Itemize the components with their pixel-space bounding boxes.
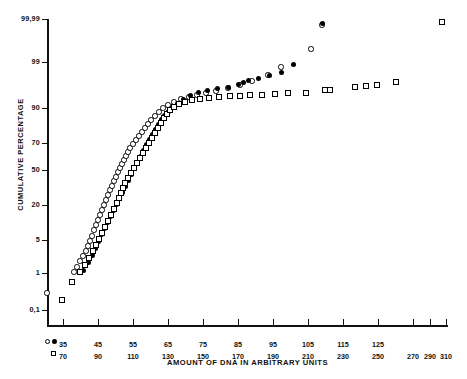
data-point-open-circle — [89, 233, 94, 238]
data-point-open-circle — [99, 207, 104, 212]
data-point-open-square — [143, 145, 148, 150]
data-point-open-square — [352, 84, 357, 89]
data-point-open-square — [140, 150, 145, 155]
data-point-open-square — [93, 242, 98, 247]
data-point-open-square — [197, 96, 202, 101]
chart-root: 99,999990705020510,1 3545556575859510511… — [0, 0, 467, 379]
data-point-filled-circle — [215, 86, 220, 91]
data-point-filled-circle — [241, 80, 246, 85]
data-point-open-circle — [278, 64, 283, 69]
data-point-open-square — [122, 180, 127, 185]
data-point-open-square — [259, 92, 264, 97]
data-point-open-circle — [95, 217, 100, 222]
data-point-open-square — [227, 93, 232, 98]
data-point-open-square — [105, 218, 110, 223]
data-point-open-square — [393, 79, 398, 84]
data-point-open-square — [206, 95, 211, 100]
data-point-open-square — [374, 82, 379, 87]
data-point-open-square — [146, 140, 151, 145]
data-point-open-square — [155, 125, 160, 130]
plot-area — [0, 0, 467, 379]
data-point-filled-circle — [279, 70, 284, 75]
data-point-open-square — [90, 248, 95, 253]
data-point-filled-circle — [246, 78, 251, 83]
data-point-open-square — [116, 195, 121, 200]
data-point-open-square — [152, 130, 157, 135]
data-point-filled-circle — [267, 73, 272, 78]
data-point-open-square — [158, 120, 163, 125]
data-point-open-circle — [80, 253, 85, 258]
data-point-open-square — [272, 91, 277, 96]
data-point-open-square — [189, 97, 194, 102]
data-point-open-square — [303, 90, 308, 95]
data-point-open-square — [69, 279, 74, 284]
data-point-open-circle — [93, 222, 98, 227]
data-point-open-square — [82, 262, 87, 267]
x-axis-title: AMOUNT OF DNA IN ARBITRARY UNITS — [47, 358, 448, 367]
data-point-open-square — [137, 155, 142, 160]
data-point-open-square — [96, 236, 101, 241]
data-point-open-square — [285, 90, 290, 95]
data-point-open-circle — [308, 46, 313, 51]
data-point-open-square — [247, 92, 252, 97]
data-point-open-square — [114, 200, 119, 205]
data-point-filled-circle — [256, 76, 261, 81]
data-point-open-square — [327, 87, 332, 92]
data-point-open-square — [77, 269, 82, 274]
data-point-filled-circle — [236, 82, 241, 87]
data-point-open-circle — [105, 192, 110, 197]
data-point-filled-circle — [205, 88, 210, 93]
data-point-open-square — [182, 99, 187, 104]
data-point-open-square — [216, 94, 221, 99]
data-point-open-circle — [71, 269, 76, 274]
data-point-filled-circle — [226, 85, 231, 90]
data-point-open-circle — [44, 290, 49, 295]
data-point-open-square — [108, 212, 113, 217]
data-point-filled-circle — [196, 90, 201, 95]
data-point-open-square — [176, 101, 181, 106]
data-point-open-square — [134, 160, 139, 165]
data-point-open-square — [131, 165, 136, 170]
data-point-filled-circle — [320, 21, 325, 26]
data-point-open-square — [149, 135, 154, 140]
data-point-open-square — [237, 93, 242, 98]
data-point-open-square — [86, 255, 91, 260]
data-point-open-square — [111, 206, 116, 211]
data-point-open-square — [363, 83, 368, 88]
data-point-open-circle — [113, 174, 118, 179]
data-point-open-square — [439, 19, 444, 24]
data-point-open-square — [120, 185, 125, 190]
data-point-open-circle — [91, 227, 96, 232]
data-point-open-square — [128, 170, 133, 175]
data-point-open-circle — [109, 183, 114, 188]
data-point-open-square — [118, 190, 123, 195]
data-point-open-circle — [83, 248, 88, 253]
data-point-open-circle — [103, 197, 108, 202]
data-point-open-square — [99, 230, 104, 235]
y-axis-title: CUMULATIVE PERCENTAGE — [16, 90, 25, 220]
data-point-open-circle — [101, 202, 106, 207]
data-point-filled-circle — [291, 62, 296, 67]
data-point-open-circle — [97, 212, 102, 217]
data-point-open-square — [59, 297, 64, 302]
data-point-open-circle — [87, 238, 92, 243]
data-point-open-square — [102, 224, 107, 229]
data-point-open-square — [125, 175, 130, 180]
